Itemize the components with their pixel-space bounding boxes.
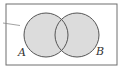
set-b-label: B [95,45,104,58]
venn-diagram: A B [0,0,123,70]
set-a-label: A [17,46,26,59]
